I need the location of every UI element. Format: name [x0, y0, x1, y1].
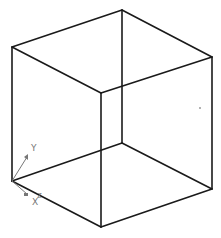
edge-top-back-left[interactable] — [12, 10, 122, 47]
edge-top-right-front[interactable] — [101, 57, 212, 93]
cube-wireframe — [12, 10, 212, 227]
edge-bottom-left-front[interactable] — [12, 181, 101, 227]
edge-bottom-right-front[interactable] — [101, 189, 212, 227]
drawing-canvas[interactable]: Y X Z — [0, 0, 221, 238]
ucs-y-label: Y — [30, 143, 37, 153]
ucs-z-label: Z — [37, 192, 42, 200]
point-marker — [199, 107, 201, 109]
edge-top-left-front[interactable] — [12, 47, 101, 93]
edge-top-back-right[interactable] — [122, 10, 212, 57]
ucs-x-arrow-icon — [24, 193, 28, 196]
edge-bottom-back-right[interactable] — [122, 143, 212, 189]
edge-bottom-back-left[interactable] — [12, 143, 122, 181]
